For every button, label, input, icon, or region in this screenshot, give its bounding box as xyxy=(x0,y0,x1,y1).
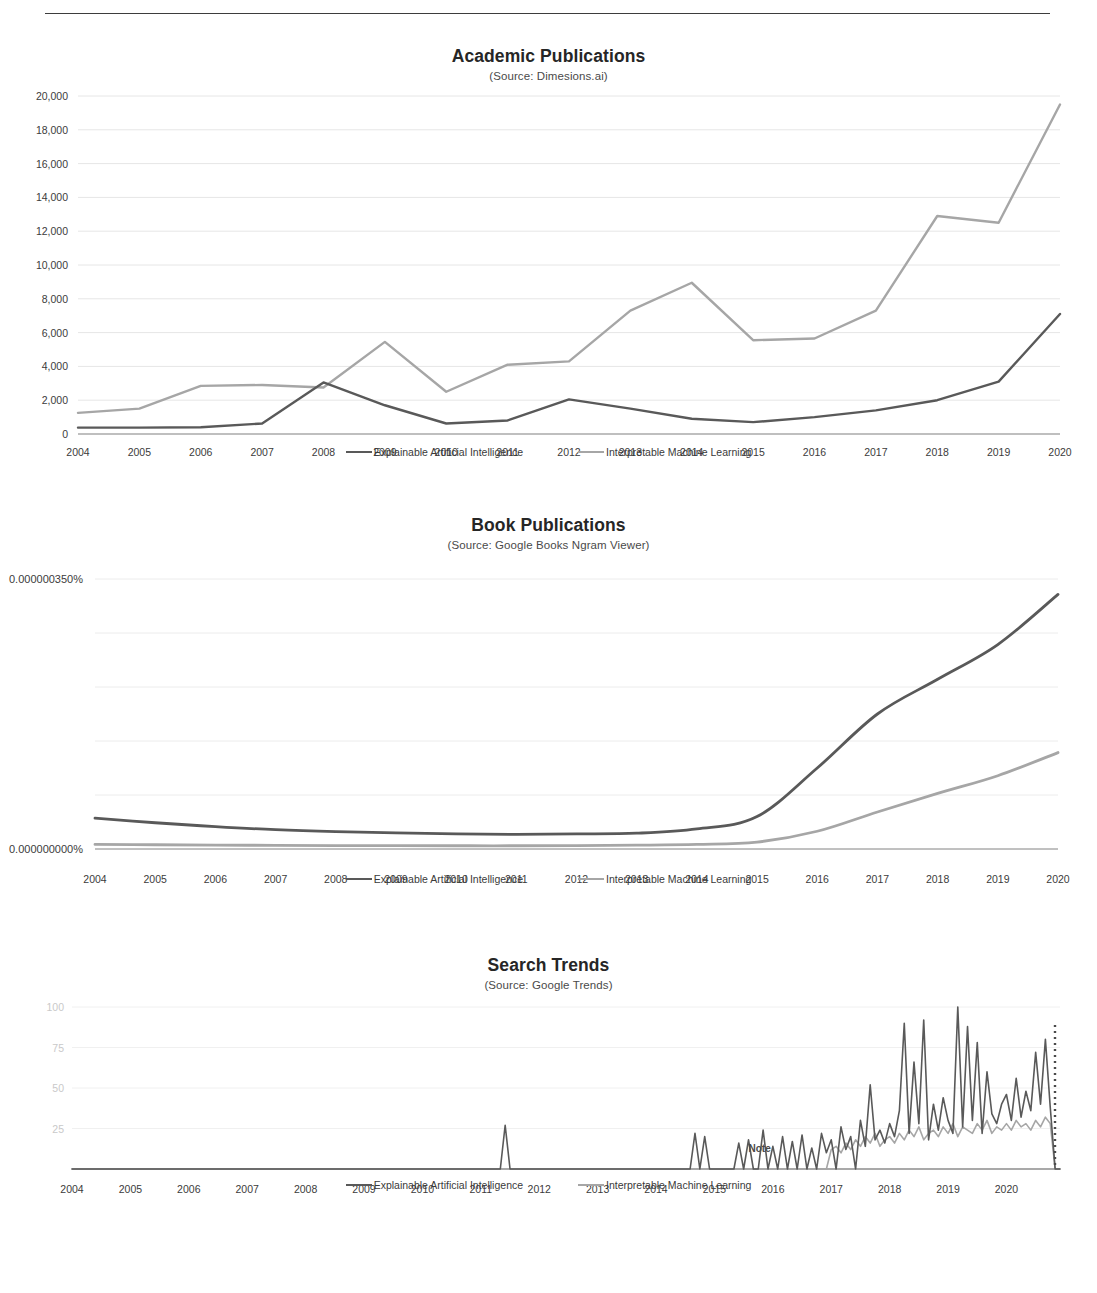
chart2-plot-area: 0.000000350%0.000000000% 200420052006200… xyxy=(0,561,1097,871)
chart1-plot-area: 02,0004,0006,0008,00010,00012,00014,0001… xyxy=(0,90,1097,445)
chart2-title: Book Publications xyxy=(0,515,1097,536)
chart3-legend: Explainable Artificial Intelligence Inte… xyxy=(0,1179,1097,1191)
chart3-ytick-3: 100 xyxy=(46,1001,64,1013)
legend-item-xai[interactable]: Explainable Artificial Intelligence xyxy=(346,446,523,458)
chart2-ytick-1: 0.000000000% xyxy=(9,843,83,855)
chart1-ytick-0: 0 xyxy=(62,428,68,440)
legend-item-iml[interactable]: Interpretable Machine Learning xyxy=(578,873,751,885)
chart1-title: Academic Publications xyxy=(0,46,1097,67)
chart1-ytick-5: 10,000 xyxy=(36,259,68,271)
chart2-y-axis-labels: 0.000000350%0.000000000% xyxy=(0,561,1097,871)
chart3-y-axis-labels: 255075100 xyxy=(0,999,1097,1181)
chart1-ytick-6: 12,000 xyxy=(36,225,68,237)
chart1-ytick-3: 6,000 xyxy=(42,327,68,339)
legend-label-iml: Interpretable Machine Learning xyxy=(606,446,751,458)
chart2-subtitle: (Source: Google Books Ngram Viewer) xyxy=(0,539,1097,551)
legend-swatch-iml-icon xyxy=(578,451,604,453)
running-header xyxy=(0,0,1097,22)
legend-swatch-xai-icon xyxy=(346,451,372,453)
chart3-ytick-1: 50 xyxy=(52,1082,64,1094)
legend-swatch-xai-icon xyxy=(346,878,372,880)
legend-item-iml[interactable]: Interpretable Machine Learning xyxy=(578,446,751,458)
legend-label-xai: Explainable Artificial Intelligence xyxy=(374,873,523,885)
chart3-note-annotation: Note xyxy=(749,1143,771,1154)
chart1-y-axis-labels: 02,0004,0006,0008,00010,00012,00014,0001… xyxy=(0,90,1097,445)
document-page: Academic Publications (Source: Dimesions… xyxy=(0,0,1097,1293)
legend-swatch-iml-icon xyxy=(578,878,604,880)
chart2-ytick-0: 0.000000350% xyxy=(9,573,83,585)
legend-item-xai[interactable]: Explainable Artificial Intelligence xyxy=(346,873,523,885)
chart1-ytick-2: 4,000 xyxy=(42,360,68,372)
legend-label-xai: Explainable Artificial Intelligence xyxy=(374,1179,523,1191)
chart1-ytick-1: 2,000 xyxy=(42,394,68,406)
chart1-ytick-10: 20,000 xyxy=(36,90,68,102)
chart-search-trends: Search Trends (Source: Google Trends) 25… xyxy=(0,955,1097,1181)
legend-swatch-xai-icon xyxy=(346,1184,372,1186)
chart3-plot-area: 255075100 Note 2004200520062007200820092… xyxy=(0,999,1097,1181)
header-rule xyxy=(45,13,1050,14)
legend-label-iml: Interpretable Machine Learning xyxy=(606,1179,751,1191)
chart1-ytick-9: 18,000 xyxy=(36,124,68,136)
chart-academic-publications: Academic Publications (Source: Dimesions… xyxy=(0,46,1097,445)
legend-item-xai[interactable]: Explainable Artificial Intelligence xyxy=(346,1179,523,1191)
chart3-title: Search Trends xyxy=(0,955,1097,976)
chart2-legend: Explainable Artificial Intelligence Inte… xyxy=(0,873,1097,885)
chart3-subtitle: (Source: Google Trends) xyxy=(0,979,1097,991)
legend-item-iml[interactable]: Interpretable Machine Learning xyxy=(578,1179,751,1191)
legend-label-xai: Explainable Artificial Intelligence xyxy=(374,446,523,458)
chart3-ytick-2: 75 xyxy=(52,1042,64,1054)
chart3-ytick-0: 25 xyxy=(52,1123,64,1135)
legend-label-iml: Interpretable Machine Learning xyxy=(606,873,751,885)
chart-book-publications: Book Publications (Source: Google Books … xyxy=(0,515,1097,871)
chart1-ytick-8: 16,000 xyxy=(36,158,68,170)
chart1-legend: Explainable Artificial Intelligence Inte… xyxy=(0,446,1097,458)
legend-swatch-iml-icon xyxy=(578,1184,604,1186)
chart1-ytick-4: 8,000 xyxy=(42,293,68,305)
chart1-ytick-7: 14,000 xyxy=(36,191,68,203)
chart1-subtitle: (Source: Dimesions.ai) xyxy=(0,70,1097,82)
